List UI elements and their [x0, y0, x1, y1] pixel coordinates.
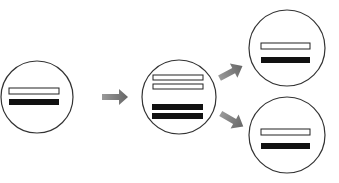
arrow-up-right-icon [216, 59, 246, 85]
filled-strand [9, 99, 59, 105]
arrow-down-right-icon [217, 107, 248, 134]
arrow-right-icon [102, 89, 128, 105]
open-strand [261, 129, 310, 135]
replicating-circle [142, 60, 216, 134]
filled-strand [152, 104, 203, 110]
replication-diagram [0, 0, 339, 183]
open-strand [261, 43, 310, 49]
filled-strand [261, 143, 310, 149]
filled-strand [152, 113, 203, 119]
open-strand [153, 84, 203, 89]
parent-node [1, 61, 73, 133]
filled-strand [261, 57, 310, 63]
parent-circle [1, 61, 73, 133]
daughter-bottom-node [249, 97, 325, 173]
open-strand [9, 88, 59, 94]
daughter-top-node [249, 10, 325, 86]
open-strand [153, 75, 203, 80]
replicating-node [142, 60, 216, 134]
